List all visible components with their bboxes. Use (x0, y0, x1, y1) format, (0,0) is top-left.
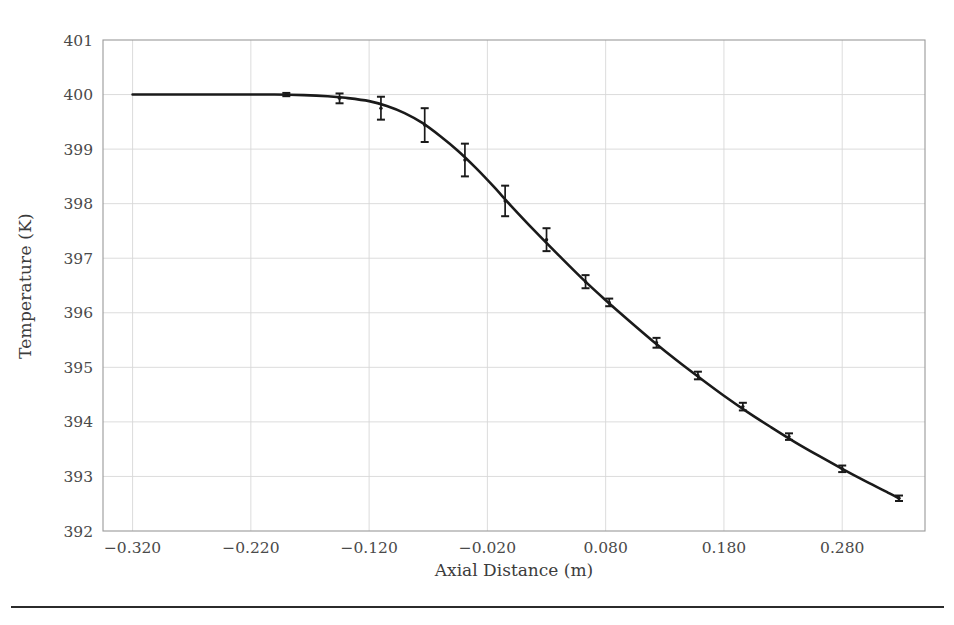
plot-frame (103, 40, 925, 531)
svg-text:392: 392 (63, 523, 93, 541)
bottom-horizontal-rule (11, 606, 944, 608)
data-point-markers (285, 93, 901, 500)
svg-text:395: 395 (63, 359, 93, 377)
svg-text:0.080: 0.080 (583, 539, 627, 557)
svg-text:399: 399 (63, 141, 93, 159)
svg-text:394: 394 (63, 413, 93, 431)
svg-text:396: 396 (63, 304, 93, 322)
error-bars (282, 93, 903, 501)
figure-container: −0.320−0.220−0.120−0.0200.0800.1800.280 … (0, 0, 954, 625)
data-series-line (133, 95, 899, 499)
svg-text:397: 397 (63, 250, 93, 268)
grid-lines (103, 40, 925, 531)
y-axis-tick-labels: 392393394395396397398399400401 (63, 32, 93, 541)
svg-text:398: 398 (63, 195, 93, 213)
x-axis-tick-labels: −0.320−0.220−0.120−0.0200.0800.1800.280 (104, 539, 865, 557)
svg-text:393: 393 (63, 468, 93, 486)
temperature-vs-axial-distance-chart: −0.320−0.220−0.120−0.0200.0800.1800.280 … (0, 0, 954, 625)
svg-text:−0.220: −0.220 (222, 539, 279, 557)
svg-text:−0.020: −0.020 (459, 539, 516, 557)
y-axis-label-container: Temperature (K) (8, 0, 42, 571)
svg-text:400: 400 (63, 86, 93, 104)
svg-text:0.180: 0.180 (702, 539, 746, 557)
svg-text:−0.320: −0.320 (104, 539, 161, 557)
svg-text:−0.120: −0.120 (340, 539, 397, 557)
svg-text:401: 401 (63, 32, 93, 50)
x-axis-label: Axial Distance (m) (103, 560, 925, 580)
y-axis-label: Temperature (K) (15, 213, 35, 359)
svg-text:0.280: 0.280 (820, 539, 864, 557)
